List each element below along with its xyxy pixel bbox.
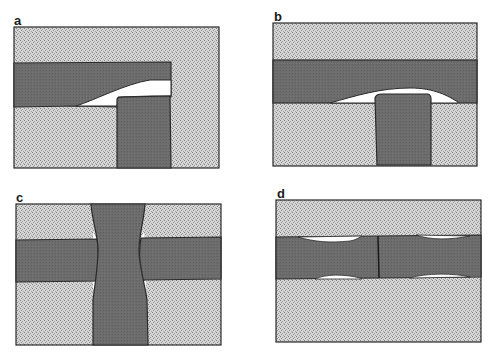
vertical-pillar: [91, 204, 148, 345]
panel-c: [16, 204, 221, 345]
panel-d: [276, 200, 481, 342]
vertical-pillar: [117, 96, 171, 168]
horizontal-band-right: [140, 237, 221, 280]
panel-a: [14, 27, 219, 168]
grain-boundary: [378, 236, 379, 278]
figure-canvas: [0, 0, 489, 358]
vertical-pillar: [375, 94, 431, 165]
panel-b: [273, 23, 477, 166]
horizontal-band-left: [16, 239, 99, 282]
